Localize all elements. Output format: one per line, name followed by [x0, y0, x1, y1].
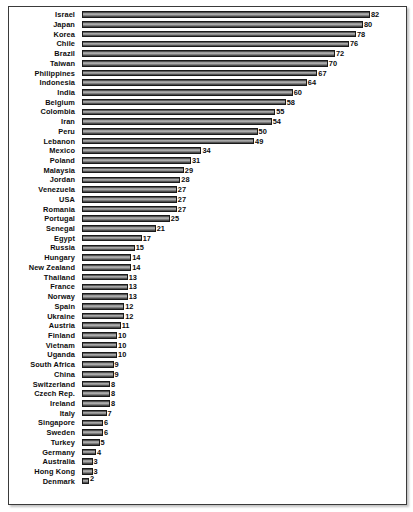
- bar-value-label: 27: [178, 205, 186, 215]
- bar-track: 8: [82, 399, 406, 409]
- bar: [82, 313, 124, 320]
- bar-track: 28: [82, 175, 406, 185]
- bar: [82, 245, 135, 252]
- bar-row: Lebanon49: [9, 137, 406, 147]
- bar-row: Senegal21: [9, 224, 406, 234]
- bar-value-label: 34: [202, 146, 210, 156]
- bar-category-label: Portugal: [9, 214, 75, 224]
- bar-track: 8: [82, 389, 406, 399]
- bar-track: 13: [82, 292, 406, 302]
- bar-track: 70: [82, 59, 406, 69]
- bar: [82, 41, 349, 48]
- bar-row: Russia15: [9, 243, 406, 253]
- bar: [82, 361, 114, 368]
- bar-category-label: Jordan: [9, 175, 75, 185]
- bar-row: Israel82: [9, 10, 406, 20]
- bar-category-label: Czech Rep.: [9, 389, 75, 399]
- bar-row: Turkey5: [9, 438, 406, 448]
- bar-row: Australia3: [9, 457, 406, 467]
- bar-track: 27: [82, 195, 406, 205]
- bar: [82, 342, 117, 349]
- bar-row: Korea78: [9, 30, 406, 40]
- bar-category-label: Philippines: [9, 69, 75, 79]
- bar-track: 7: [82, 409, 406, 419]
- bar-category-label: Belgium: [9, 98, 75, 108]
- bar-track: 10: [82, 350, 406, 360]
- bar-row: Chile76: [9, 39, 406, 49]
- bar-row: Germany4: [9, 448, 406, 458]
- bar-category-label: Finland: [9, 331, 75, 341]
- bar-value-label: 28: [181, 175, 189, 185]
- bar-category-label: Singapore: [9, 418, 75, 428]
- bar: [82, 215, 170, 222]
- bar-category-label: Egypt: [9, 234, 75, 244]
- bar: [82, 31, 356, 38]
- bar-value-label: 27: [178, 185, 186, 195]
- bar: [82, 50, 335, 57]
- bar-row: Ireland8: [9, 399, 406, 409]
- bar-row: Italy7: [9, 409, 406, 419]
- bar-track: 10: [82, 331, 406, 341]
- bar-track: 6: [82, 418, 406, 428]
- bar-category-label: Italy: [9, 409, 75, 419]
- bar: [82, 410, 107, 417]
- bar-track: 9: [82, 370, 406, 380]
- bar: [82, 138, 254, 145]
- bar-value-label: 4: [97, 448, 101, 458]
- bar-row: Brazil72: [9, 49, 406, 59]
- bar-category-label: Israel: [9, 10, 75, 20]
- bar: [82, 429, 103, 436]
- bar-category-label: Turkey: [9, 438, 75, 448]
- bar: [82, 352, 117, 359]
- bar-value-label: 29: [185, 166, 193, 176]
- bar-track: 12: [82, 302, 406, 312]
- bar-category-label: Germany: [9, 448, 75, 458]
- bar-category-label: Austria: [9, 321, 75, 331]
- bar: [82, 420, 103, 427]
- bar-value-label: 3: [94, 457, 98, 467]
- bar: [82, 196, 177, 203]
- bar-category-label: Ireland: [9, 399, 75, 409]
- bar-value-label: 10: [118, 341, 126, 351]
- bar-track: 15: [82, 243, 406, 253]
- bar-category-label: Thailand: [9, 273, 75, 283]
- bar-category-label: Iran: [9, 117, 75, 127]
- bar-category-label: Australia: [9, 457, 75, 467]
- bar-category-label: Malaysia: [9, 166, 75, 176]
- bar-value-label: 10: [118, 350, 126, 360]
- bar-track: 64: [82, 78, 406, 88]
- bar: [82, 206, 177, 213]
- bar-category-label: Hong Kong: [9, 467, 75, 477]
- bar: [82, 109, 275, 116]
- bar-row: Peru50: [9, 127, 406, 137]
- bar: [82, 225, 156, 232]
- bar-value-label: 31: [192, 156, 200, 166]
- bar-value-label: 54: [273, 117, 281, 127]
- bar-track: 78: [82, 30, 406, 40]
- bar-row: South Africa9: [9, 360, 406, 370]
- bar-row: Philippines67: [9, 69, 406, 79]
- bar-value-label: 50: [259, 127, 267, 137]
- bar-category-label: Senegal: [9, 224, 75, 234]
- bar: [82, 157, 191, 164]
- bar-value-label: 14: [132, 263, 140, 273]
- bar: [82, 458, 93, 465]
- bar: [82, 186, 177, 193]
- bar-row: Taiwan70: [9, 59, 406, 69]
- bar-value-label: 82: [371, 10, 379, 20]
- bar-category-label: Romania: [9, 205, 75, 215]
- bar-track: 2: [82, 477, 406, 487]
- bar: [82, 118, 272, 125]
- bar-value-label: 8: [111, 380, 115, 390]
- bar-value-label: 21: [157, 224, 165, 234]
- bar-value-label: 15: [136, 243, 144, 253]
- bar-row: Belgium58: [9, 98, 406, 108]
- bar-value-label: 80: [364, 20, 372, 30]
- bar-track: 8: [82, 380, 406, 390]
- bar-track: 13: [82, 273, 406, 283]
- bar-category-label: Mexico: [9, 146, 75, 156]
- bar-category-label: Japan: [9, 20, 75, 30]
- bar-value-label: 25: [171, 214, 179, 224]
- bar-row: Mexico34: [9, 146, 406, 156]
- bar-row: Romania27: [9, 205, 406, 215]
